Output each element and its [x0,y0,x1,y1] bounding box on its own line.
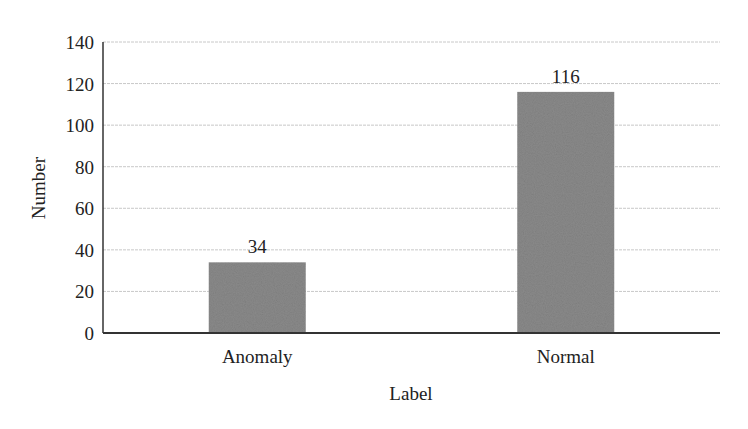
x-category-labels: AnomalyNormal [222,346,595,367]
y-tick-label: 80 [75,157,94,178]
data-label: 116 [552,66,580,87]
y-tick-label: 0 [85,323,95,344]
y-axis-label: Number [28,156,49,219]
y-tick-label: 100 [66,115,95,136]
x-axis-label: Label [389,383,432,404]
y-tick-label: 20 [75,281,94,302]
y-tick-label: 40 [75,240,94,261]
x-category-label: Normal [537,346,595,367]
y-tick-label: 140 [66,32,95,53]
gridlines [103,42,720,291]
data-label: 34 [248,236,268,257]
y-tick-label: 60 [75,198,94,219]
bars [209,92,615,333]
y-tick-labels: 020406080100120140 [66,32,95,344]
bar-chart: 020406080100120140 AnomalyNormal 34116 L… [0,0,748,429]
x-category-label: Anomaly [222,346,293,367]
bar-anomaly [209,262,306,333]
y-tick-label: 120 [66,74,95,95]
axes [103,42,720,333]
bar-normal [517,92,614,333]
